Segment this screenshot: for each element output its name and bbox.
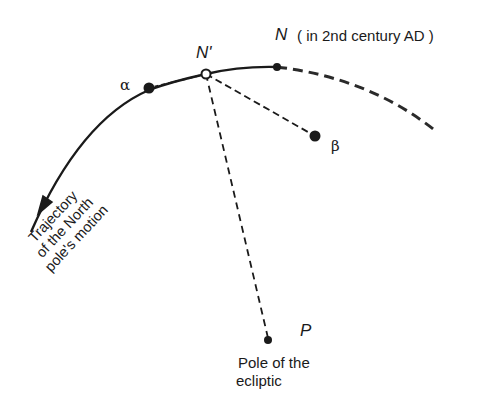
pole-caption-line1: Pole of the <box>238 354 310 371</box>
alpha-star-dot <box>144 83 155 94</box>
line-nprime-beta <box>206 74 315 136</box>
n-prime-label: N' <box>196 44 212 61</box>
n-label: N <box>275 26 287 43</box>
n-dot <box>273 63 281 71</box>
trajectory-dashed-arc <box>277 67 437 132</box>
n-prime-open-circle <box>202 70 211 79</box>
alpha-label: α <box>120 77 130 94</box>
pole-caption-line2: ecliptic <box>236 372 282 389</box>
p-ecliptic-pole-dot <box>264 336 272 344</box>
p-label: P <box>300 322 311 339</box>
beta-label: β <box>331 138 340 155</box>
beta-star-dot <box>310 131 321 142</box>
n-note: ( in 2nd century AD ) <box>297 27 434 44</box>
line-nprime-alpha <box>149 74 206 88</box>
line-nprime-p <box>206 74 268 338</box>
